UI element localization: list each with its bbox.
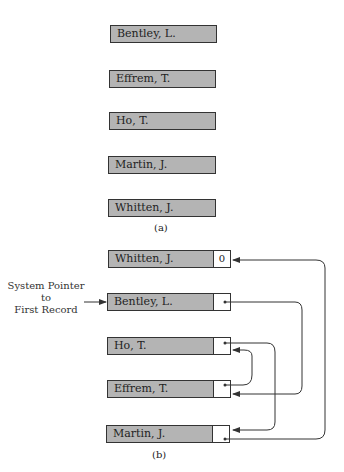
link-arrows bbox=[0, 0, 344, 472]
